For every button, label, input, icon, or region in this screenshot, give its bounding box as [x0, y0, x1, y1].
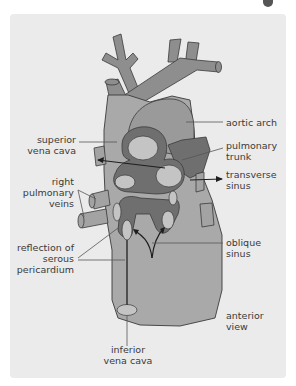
label-inferior-vena-cava: inferior vena cava [100, 344, 156, 366]
label-aortic-arch: aortic arch [226, 117, 277, 128]
label-reflection-of-serous-pericardium: reflection of serous pericardium [10, 242, 74, 275]
label-superior-vena-cava: superior vena cava [22, 134, 76, 156]
label-transverse-sinus: transverse sinus [226, 169, 277, 191]
label-right-pulmonary-veins: right pulmonary veins [18, 176, 74, 209]
label-oblique-sinus: oblique sinus [226, 237, 261, 259]
label-pulmonary-trunk: pulmonary trunk [226, 140, 277, 162]
label-anterior-view: anterior view [226, 310, 264, 332]
great-vessels [102, 34, 222, 104]
